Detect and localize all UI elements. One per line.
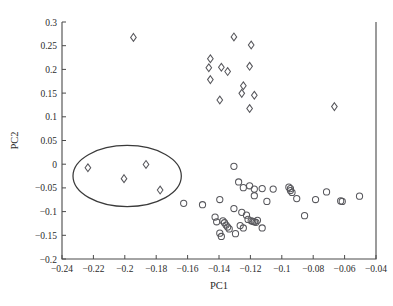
data-point-diamond [206, 64, 212, 72]
data-point-diamond [143, 161, 149, 169]
data-point-circle [232, 231, 238, 237]
y-tick-label: 0.2 [45, 65, 57, 75]
y-tick-label: 0.3 [45, 18, 57, 28]
data-point-circle [312, 196, 318, 202]
data-point-diamond [239, 89, 245, 97]
data-point-circle [270, 186, 276, 192]
x-tick-label: −0.18 [145, 264, 167, 274]
data-point-circle [181, 200, 187, 206]
data-point-diamond [208, 76, 214, 84]
series-circles [181, 163, 363, 239]
data-point-circle [264, 198, 270, 204]
data-point-diamond [219, 63, 225, 71]
data-point-diamond [247, 105, 253, 113]
scatter-plot-figure: −0.24−0.22−0.2−0.18−0.16−0.14−0.12−0.1−0… [0, 0, 393, 306]
data-point-circle [259, 225, 265, 231]
data-point-circle [236, 179, 242, 185]
data-point-circle [259, 186, 265, 192]
data-point-diamond [231, 33, 237, 41]
data-point-circle [301, 213, 307, 219]
data-point-diamond [157, 186, 163, 194]
data-point-circle [356, 193, 362, 199]
y-tick-label: 0.05 [40, 136, 57, 146]
x-tick-label: −0.2 [116, 264, 133, 274]
x-axis-tick-labels: −0.24−0.22−0.2−0.18−0.16−0.14−0.12−0.1−0… [51, 264, 387, 274]
x-axis-ticks [62, 255, 376, 259]
data-point-circle [251, 186, 257, 192]
x-tick-label: −0.12 [239, 264, 261, 274]
data-point-circle [231, 205, 237, 211]
data-point-circle [240, 185, 246, 191]
data-point-circle [231, 163, 237, 169]
y-tick-label: −0.15 [35, 231, 57, 241]
x-tick-label: −0.08 [302, 264, 324, 274]
y-tick-label: 0 [52, 160, 57, 170]
x-tick-label: −0.14 [208, 264, 230, 274]
y-tick-label: 0.15 [40, 89, 57, 99]
y-axis-tick-labels: −0.2−0.15−0.1−0.0500.050.10.150.20.250.3 [35, 18, 57, 265]
data-series-layer [85, 33, 363, 240]
annotation-layer [73, 145, 181, 206]
y-tick-label: −0.1 [40, 207, 57, 217]
data-point-diamond [252, 91, 258, 99]
data-point-circle [251, 193, 257, 199]
x-tick-label: −0.1 [273, 264, 290, 274]
data-point-circle [199, 202, 205, 208]
data-point-diamond [121, 175, 127, 183]
data-point-diamond [241, 82, 247, 90]
cluster-ellipse [73, 145, 181, 206]
data-point-diamond [248, 41, 254, 49]
series-diamonds [85, 33, 337, 194]
y-axis-label: PC2 [9, 131, 20, 149]
x-tick-label: −0.16 [177, 264, 199, 274]
y-tick-label: 0.25 [40, 41, 57, 51]
data-point-circle [220, 218, 226, 224]
x-tick-label: −0.22 [82, 264, 104, 274]
data-point-circle [294, 195, 300, 201]
x-tick-label: −0.04 [365, 264, 387, 274]
data-point-diamond [332, 103, 338, 111]
y-tick-label: 0.1 [45, 112, 57, 122]
data-point-circle [323, 189, 329, 195]
y-tick-label: −0.2 [40, 255, 57, 265]
data-point-diamond [85, 164, 91, 172]
data-point-diamond [131, 34, 137, 42]
data-point-diamond [247, 62, 253, 70]
x-axis-label: PC1 [210, 280, 228, 291]
data-point-diamond [217, 96, 223, 104]
data-point-circle [217, 196, 223, 202]
y-tick-label: −0.05 [35, 183, 57, 193]
data-point-diamond [225, 68, 231, 76]
x-tick-label: −0.24 [51, 264, 73, 274]
data-point-diamond [208, 55, 214, 63]
data-point-circle [225, 224, 231, 230]
x-tick-label: −0.06 [334, 264, 356, 274]
plot-svg: −0.24−0.22−0.2−0.18−0.16−0.14−0.12−0.1−0… [0, 0, 393, 306]
y-axis-ticks [62, 22, 66, 259]
data-point-circle [289, 189, 295, 195]
